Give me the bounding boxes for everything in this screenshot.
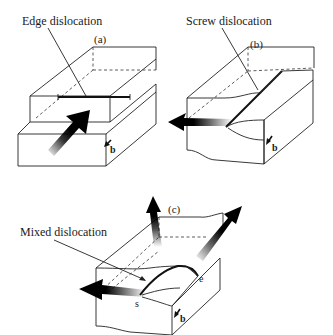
screw-shear-arrow (168, 113, 232, 131)
burgers-vector-label-c: b (180, 313, 186, 324)
panel-a-tag: (a) (94, 33, 107, 46)
mixed-up-arrow (146, 196, 162, 247)
screw-dislocation-label: Screw dislocation (186, 14, 272, 28)
mixed-dislocation-label: Mixed dislocation (20, 225, 107, 239)
edge-shear-arrow (48, 110, 90, 156)
mixed-leader-line (54, 240, 145, 280)
dislocation-diagram: Edge dislocation (a) b Screw dislocation… (0, 0, 333, 335)
panel-c-tag: (c) (168, 203, 181, 216)
edge-dislocation-label: Edge dislocation (22, 14, 102, 28)
mixed-left-arrow (79, 279, 146, 300)
edge-leader-line (48, 28, 86, 96)
edge-endpoint-label: e (199, 273, 204, 284)
panel-c-mixed-dislocation: Mixed dislocation (c) s e b (20, 196, 242, 335)
burgers-vector-label-a: b (110, 144, 116, 155)
screw-endpoint-label: s (135, 298, 139, 309)
mixed-dislocation-line (140, 266, 198, 295)
mixed-right-arrow (196, 206, 242, 261)
panel-b-tag: (b) (250, 38, 263, 51)
panel-b-screw-dislocation: Screw dislocation (b) b (168, 14, 314, 164)
panel-a-edge-dislocation: Edge dislocation (a) b (18, 14, 156, 166)
burgers-vector-label-b: b (272, 142, 278, 153)
